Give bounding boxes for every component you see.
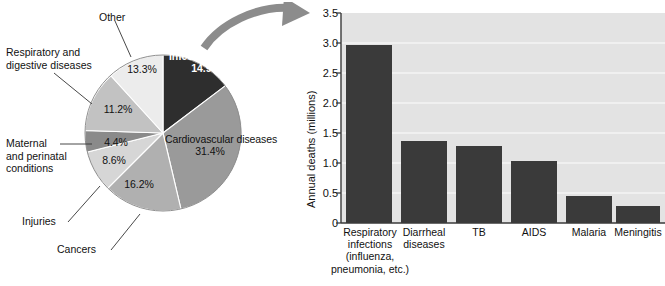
- y-axis-ticks: [336, 13, 341, 223]
- pie-label-infectious-diseases: Infectious diseases 14.9%: [169, 51, 243, 74]
- callout-maternal-perinatal: Maternal and perinatal conditions: [6, 137, 67, 175]
- callout-injuries: Injuries: [22, 215, 56, 228]
- leader-line-other: [115, 21, 131, 57]
- pie-label-other: 13.3%: [119, 64, 165, 76]
- bar-tb[interactable]: [456, 146, 502, 223]
- x-tick-respiratory-line-3: (influenza,: [328, 250, 412, 262]
- bar-respiratory-infections[interactable]: [346, 45, 392, 223]
- bar-chart-panel: Annual deaths (millions) 3.5 3.0 2.5 2.0…: [296, 0, 665, 286]
- pie-label-respiratory-digestive: 11.2%: [95, 104, 141, 116]
- callout-respiratory-digestive-line-1: Respiratory and: [6, 46, 92, 59]
- callout-respiratory-digestive-line-2: digestive diseases: [6, 59, 92, 72]
- callout-cancers: Cancers: [57, 243, 96, 256]
- x-tick-label-meningitis: Meningitis: [607, 226, 665, 238]
- callout-other-line-1: Other: [99, 11, 125, 24]
- bar-diarrheal-diseases[interactable]: [401, 141, 447, 223]
- leader-line-injuries: [68, 186, 100, 222]
- x-tick-label-tb: TB: [449, 226, 509, 238]
- callout-injuries-line-1: Injuries: [22, 215, 56, 228]
- leader-line-respiratory-digestive: [54, 73, 92, 104]
- callout-cancers-line-1: Cancers: [57, 243, 96, 256]
- figure-root: Infectious diseases 14.9% Cardiovascular…: [0, 0, 665, 286]
- callout-maternal-perinatal-line-3: conditions: [6, 162, 67, 175]
- callout-other: Other: [99, 11, 125, 24]
- x-tick-label-aids: AIDS: [504, 226, 564, 238]
- bar-aids[interactable]: [511, 161, 557, 223]
- leader-line-cancers: [111, 214, 140, 250]
- bar-meningitis[interactable]: [616, 206, 660, 223]
- x-tick-aids-line-1: AIDS: [504, 226, 564, 238]
- pie-label-injuries: 8.6%: [93, 155, 135, 167]
- pie-label-maternal-perinatal: 4.4%: [95, 137, 137, 149]
- x-tick-tb-line-1: TB: [449, 226, 509, 238]
- x-tick-diarrheal-line-2: diseases: [388, 238, 460, 250]
- callout-respiratory-digestive: Respiratory and digestive diseases: [6, 46, 92, 71]
- pie-label-cardiovascular-diseases: Cardiovascular diseases 31.4%: [165, 134, 255, 157]
- pie-label-cancers: 16.2%: [116, 179, 162, 191]
- callout-maternal-perinatal-line-2: and perinatal: [6, 150, 67, 163]
- x-tick-respiratory-line-4: pneumonia, etc.): [328, 263, 412, 275]
- callout-maternal-perinatal-line-1: Maternal: [6, 137, 67, 150]
- bar-malaria[interactable]: [566, 196, 612, 223]
- x-tick-meningitis-line-1: Meningitis: [607, 226, 665, 238]
